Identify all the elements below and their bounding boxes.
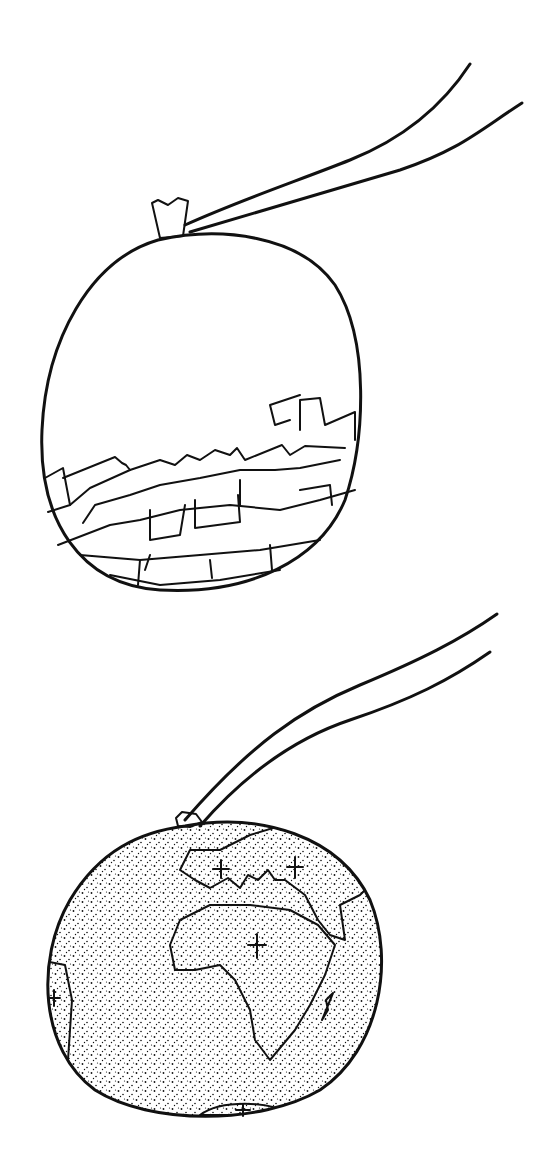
globe-balloon (30, 614, 497, 1140)
string-strand-1 (185, 64, 470, 225)
balloon-knot (152, 198, 188, 238)
balloon-body (42, 234, 361, 590)
rubble-bricks (45, 395, 355, 585)
string-strand-1 (185, 614, 497, 820)
string-strand-2 (200, 652, 490, 826)
rubble-balloon (42, 64, 522, 590)
illustration-canvas (0, 0, 540, 1163)
string-strand-2 (190, 103, 522, 232)
